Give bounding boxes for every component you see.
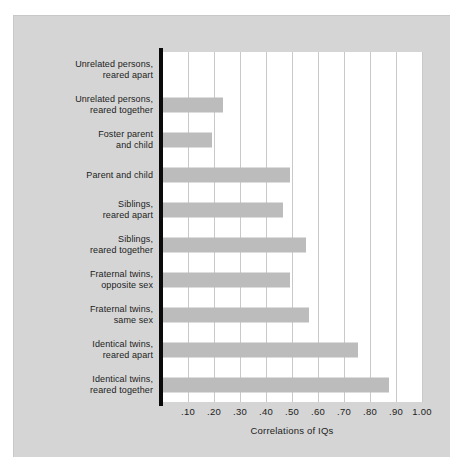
x-axis-tick-labels: .10.20.30.40.50.60.70.80.901.00 (13, 406, 460, 420)
chart-panel: Unrelated persons, reared apartUnrelated… (13, 15, 450, 457)
bar (163, 132, 212, 147)
bar-row: Identical twins, reared together (13, 367, 460, 402)
x-tick-label: 1.00 (402, 406, 442, 417)
category-label: Foster parent and child (33, 129, 153, 151)
bar-row: Fraternal twins, opposite sex (13, 262, 460, 297)
category-label: Unrelated persons, reared together (33, 94, 153, 116)
category-label: Siblings, reared together (33, 234, 153, 256)
bar-row: Parent and child (13, 157, 460, 192)
bar (163, 237, 306, 252)
bar-row: Foster parent and child (13, 122, 460, 157)
x-axis-title: Correlations of IQs (162, 425, 422, 436)
bar (163, 377, 389, 392)
category-label: Siblings, reared apart (33, 199, 153, 221)
bar (163, 97, 223, 112)
bar-row: Fraternal twins, same sex (13, 297, 460, 332)
category-label: Unrelated persons, reared apart (33, 59, 153, 81)
bar-row: Unrelated persons, reared together (13, 87, 460, 122)
bar (163, 342, 358, 357)
bar (163, 167, 290, 182)
category-label: Fraternal twins, opposite sex (33, 269, 153, 291)
bar-rows: Unrelated persons, reared apartUnrelated… (13, 52, 460, 402)
bar-row: Siblings, reared together (13, 227, 460, 262)
bar-row: Siblings, reared apart (13, 192, 460, 227)
bar-row: Identical twins, reared apart (13, 332, 460, 367)
bar-row: Unrelated persons, reared apart (13, 52, 460, 87)
category-label: Identical twins, reared together (33, 374, 153, 396)
bar (163, 307, 309, 322)
bar (163, 202, 283, 217)
category-label: Parent and child (33, 169, 153, 180)
chart-figure: Unrelated persons, reared apartUnrelated… (0, 0, 460, 466)
bar (163, 272, 290, 287)
category-label: Fraternal twins, same sex (33, 304, 153, 326)
category-label: Identical twins, reared apart (33, 339, 153, 361)
